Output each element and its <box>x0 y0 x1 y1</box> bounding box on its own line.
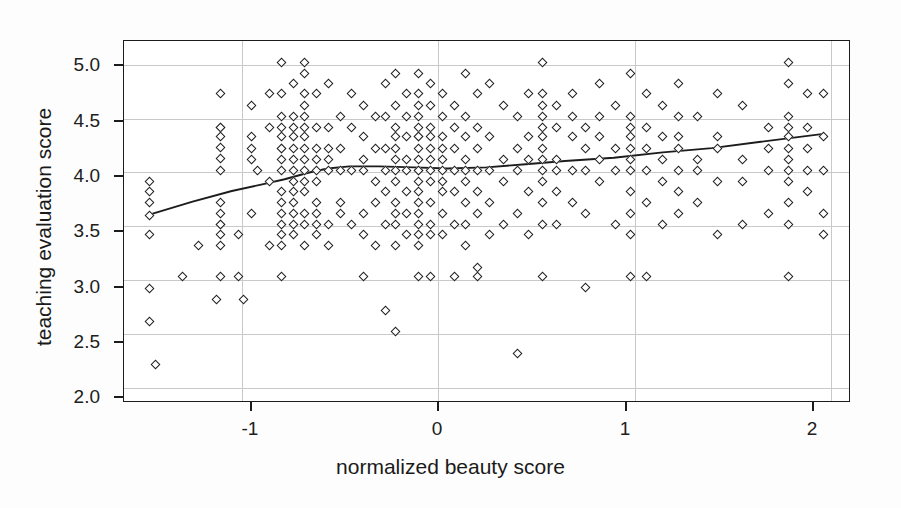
y-tick-label-3-5: 3.5 <box>58 221 100 240</box>
y-tick-label-2-5: 2.5 <box>58 332 100 351</box>
plot-frame <box>123 40 850 402</box>
y-tick-3-5 <box>114 230 123 232</box>
y-tick-2-0 <box>114 396 123 398</box>
y-tick-4-0 <box>114 175 123 177</box>
x-tick-label-1: 1 <box>595 419 655 438</box>
y-axis-label: teaching evaluation score <box>32 77 56 377</box>
x-tick-0 <box>437 402 439 411</box>
figure-canvas: 5.0 4.5 4.0 3.5 3.0 2.5 2.0 -1 0 1 2 nor… <box>0 0 901 508</box>
y-tick-2-5 <box>114 341 123 343</box>
y-tick-label-4-5: 4.5 <box>58 111 100 130</box>
x-tick-2 <box>812 402 814 411</box>
x-axis-label: normalized beauty score <box>0 455 901 479</box>
y-tick-label-3-0: 3.0 <box>58 277 100 296</box>
y-tick-3-0 <box>114 286 123 288</box>
x-tick-label-neg1: -1 <box>220 419 280 438</box>
x-tick-1 <box>625 402 627 411</box>
y-tick-5-0 <box>114 64 123 66</box>
plot-area <box>124 41 849 401</box>
y-tick-label-2-0: 2.0 <box>58 387 100 406</box>
x-tick-label-2: 2 <box>782 419 842 438</box>
x-tick-label-0: 0 <box>407 419 467 438</box>
x-tick-neg1 <box>250 402 252 411</box>
y-tick-label-5-0: 5.0 <box>58 55 100 74</box>
y-tick-4-5 <box>114 120 123 122</box>
y-tick-label-4-0: 4.0 <box>58 166 100 185</box>
